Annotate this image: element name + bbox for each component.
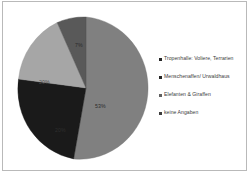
pie-slice-menschenaffen bbox=[18, 79, 86, 159]
pie-svg bbox=[17, 16, 155, 160]
plot-area: 53% 20% 20% 7% bbox=[11, 10, 159, 166]
legend-item-keine-angaben: keine Angaben bbox=[159, 104, 249, 122]
legend-item-tropenhalle: Tropenhalle: Voliere, Terrarien bbox=[159, 50, 249, 68]
legend-item-label: Tropenhalle: Voliere, Terrarien bbox=[164, 56, 234, 62]
slice-value-label-keine-angaben: 7% bbox=[75, 43, 83, 48]
slice-value-label-tropenhalle: 53% bbox=[95, 104, 106, 109]
slice-value-label-menschenaffen: 20% bbox=[55, 128, 66, 133]
legend-item-label: Elefanten & Giraffen bbox=[164, 92, 211, 98]
chart-frame: 53% 20% 20% 7% Tropenhalle: Voliere, Ter… bbox=[2, 1, 247, 171]
chart-legend: Tropenhalle: Voliere, Terrarien Menschen… bbox=[159, 50, 249, 122]
square-marker-icon bbox=[159, 112, 162, 115]
legend-item-label: Menschenaffen/ Urwaldhaus bbox=[164, 74, 230, 80]
legend-item-elefanten: Elefanten & Giraffen bbox=[159, 86, 249, 104]
legend-item-menschenaffen: Menschenaffen/ Urwaldhaus bbox=[159, 68, 249, 86]
square-marker-icon bbox=[159, 58, 162, 61]
pie-graphic: 53% 20% 20% 7% bbox=[17, 16, 155, 160]
square-marker-icon bbox=[159, 76, 162, 79]
legend-item-label: keine Angaben bbox=[164, 110, 198, 116]
square-marker-icon bbox=[159, 94, 162, 97]
pie-chart-figure: 53% 20% 20% 7% Tropenhalle: Voliere, Ter… bbox=[0, 0, 249, 173]
slice-value-label-elefanten: 20% bbox=[39, 80, 50, 85]
